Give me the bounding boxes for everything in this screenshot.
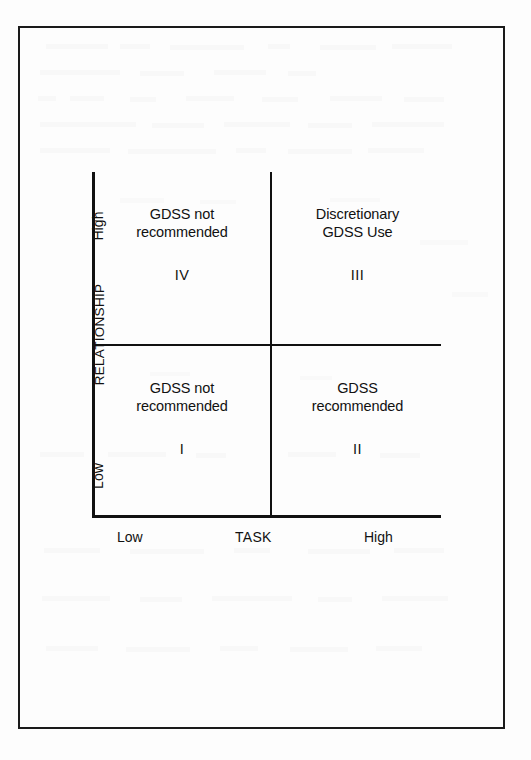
x-axis-title: TASK — [235, 527, 272, 547]
quadrant-matrix-chart: GDSS not recommended IV Discretionary GD… — [92, 172, 441, 518]
x-axis-tick-low: Low — [117, 527, 143, 547]
scanned-figure-page: GDSS not recommended IV Discretionary GD… — [0, 0, 531, 760]
quadrant-ii-numeral: II — [353, 441, 362, 458]
quadrant-i-numeral: I — [180, 441, 184, 458]
quadrant-iii: Discretionary GDSS Use III — [274, 172, 441, 344]
x-axis-tick-high: High — [364, 527, 393, 547]
quadrant-i-label: GDSS not recommended — [136, 380, 228, 415]
quadrant-ii-label: GDSS recommended — [312, 380, 404, 415]
x-axis-label-row: Low TASK High — [92, 527, 441, 549]
quadrant-iv: GDSS not recommended IV — [94, 172, 270, 344]
y-axis-title: RELATIONSHIP — [92, 265, 107, 405]
quadrant-iv-numeral: IV — [175, 267, 190, 284]
quadrant-i: GDSS not recommended I — [94, 346, 270, 518]
quadrant-iii-label: Discretionary GDSS Use — [316, 206, 399, 241]
quadrant-iv-label: GDSS not recommended — [136, 206, 228, 241]
quadrant-ii: GDSS recommended II — [274, 346, 441, 518]
y-axis-tick-high: High — [90, 196, 106, 256]
quadrant-iii-numeral: III — [351, 267, 364, 284]
y-axis-tick-low: Low — [90, 446, 106, 506]
